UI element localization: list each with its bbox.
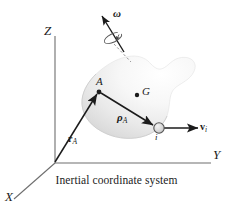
particle-label-i: i (155, 133, 158, 142)
vector-r-a (55, 94, 97, 162)
rigid-body-kinematics-figure: Z Y X A G i ω rA ρA vi Inertial coordina… (0, 0, 233, 209)
axis-label-y: Y (213, 148, 220, 161)
rotation-spin-indicator (103, 30, 124, 46)
rigid-body-shape (82, 56, 195, 138)
axis-label-x: X (5, 190, 13, 203)
vector-label-r-sub: A (72, 137, 77, 146)
vector-label-omega: ω (113, 8, 121, 19)
point-g-dot (135, 93, 139, 97)
vector-label-v-sub: i (205, 125, 207, 134)
figure-caption: Inertial coordinate system (0, 174, 233, 186)
vector-label-v-i: vi (200, 122, 207, 134)
point-label-g: G (142, 86, 150, 97)
point-a-dot (97, 90, 102, 95)
axis-label-z: Z (44, 24, 51, 37)
vector-omega (102, 16, 124, 52)
vector-label-r-a: rA (68, 134, 77, 146)
vector-label-rho-sub: A (123, 116, 128, 125)
point-label-a: A (96, 76, 103, 87)
vector-label-rho-a: ρA (117, 112, 127, 125)
